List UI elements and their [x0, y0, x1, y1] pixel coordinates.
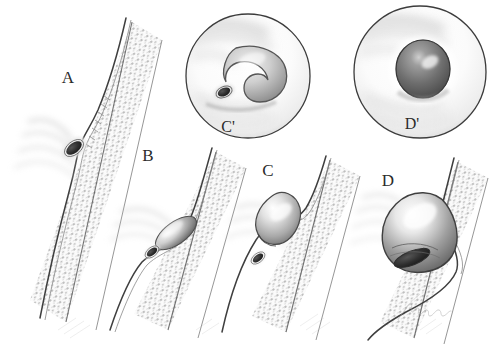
- inset-label-C-prime: C': [221, 118, 235, 135]
- inset-label-D-prime: D': [405, 115, 420, 132]
- inset-D-prime: D': [354, 6, 486, 138]
- panel-label-B: B: [142, 146, 153, 165]
- panel-label-D: D: [382, 171, 394, 190]
- inset-C-prime: C': [186, 14, 310, 138]
- panel-label-A: A: [62, 68, 75, 87]
- figure-canvas: A B: [0, 0, 502, 348]
- illustration-figure: A B: [0, 0, 502, 348]
- panel-label-C: C: [262, 161, 273, 180]
